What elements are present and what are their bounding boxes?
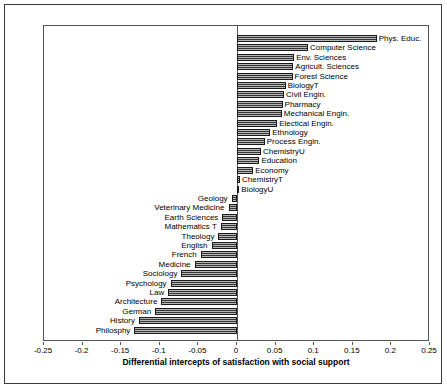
bar-row: German	[44, 308, 428, 317]
bar-category-label: Mathematics T	[164, 222, 216, 231]
bar-category-label: Agricult. Sciences	[295, 62, 359, 71]
bar-category-label: English	[181, 241, 207, 250]
bar-row: Sociology	[44, 270, 428, 279]
bar-category-label: Process Engin.	[267, 137, 321, 146]
bar-row: Geology	[44, 195, 428, 204]
bar	[237, 63, 293, 70]
bar-row: Computer Science	[44, 44, 428, 53]
x-tick-mark	[275, 342, 276, 345]
x-tick-mark	[429, 342, 430, 345]
bar	[171, 280, 237, 287]
x-tick-label: 0.15	[344, 346, 360, 355]
x-tick-label: -0.25	[34, 346, 52, 355]
x-tick-label: -0.15	[111, 346, 129, 355]
bar-row: Civil Engin.	[44, 91, 428, 100]
bar	[222, 214, 237, 221]
bar-row: Earth Sciences	[44, 214, 428, 223]
bar-row: Forest Science	[44, 73, 428, 82]
bar	[237, 120, 277, 127]
bar-category-label: Computer Science	[310, 43, 376, 52]
plot-area: Phys. Educ.Computer ScienceEnv. Sciences…	[43, 25, 429, 341]
bar-category-label: ChemistryT	[242, 175, 283, 184]
bar-row: ChemistryU	[44, 148, 428, 157]
bar-row: Ethnology	[44, 129, 428, 138]
x-axis: -0.25-0.2-0.15-0.1-0.0500.050.10.150.20.…	[43, 342, 429, 356]
bar-row: Economy	[44, 167, 428, 176]
bar	[237, 82, 286, 89]
bar-row: Law	[44, 289, 428, 298]
bar-category-label: Env. Sciences	[296, 53, 346, 62]
bar-category-label: Mechanical Engin.	[284, 109, 349, 118]
bar-row: Agricult. Sciences	[44, 63, 428, 72]
bar-category-label: Architecture	[115, 297, 158, 306]
bar	[232, 195, 237, 202]
bar	[201, 251, 237, 258]
x-tick-mark	[120, 342, 121, 345]
bar-category-label: French	[172, 250, 197, 259]
bar-category-label: Theology	[182, 232, 215, 241]
x-tick-mark	[197, 342, 198, 345]
x-tick-mark	[159, 342, 160, 345]
x-tick-label: 0.2	[385, 346, 396, 355]
bar-row: Process Engin.	[44, 138, 428, 147]
bar-row: Veterinary Medicine	[44, 204, 428, 213]
bar	[221, 223, 237, 230]
bar	[237, 176, 240, 183]
bar-category-label: Veterinary Medicine	[154, 203, 224, 212]
bar-category-label: Electical Engin.	[279, 119, 334, 128]
bar	[237, 110, 282, 117]
x-tick-mark	[390, 342, 391, 345]
bar-row: BiologyU	[44, 186, 428, 195]
bar-row: Pharmacy	[44, 101, 428, 110]
bar-category-label: Civil Engin.	[286, 90, 326, 99]
bar	[237, 44, 308, 51]
x-tick-label: 0.1	[308, 346, 319, 355]
bar	[237, 54, 294, 61]
bar-row: Philosphy	[44, 327, 428, 336]
bar-row: ChemistryT	[44, 176, 428, 185]
bar-category-label: Education	[261, 156, 297, 165]
x-tick-mark	[43, 342, 44, 345]
bar-series: Phys. Educ.Computer ScienceEnv. Sciences…	[44, 26, 428, 340]
x-tick-label: -0.2	[75, 346, 89, 355]
bar	[237, 167, 253, 174]
x-tick-label: 0.25	[421, 346, 437, 355]
bar-category-label: History	[110, 316, 135, 325]
bar	[134, 327, 237, 334]
bar	[237, 91, 284, 98]
bar-category-label: ChemistryU	[263, 147, 305, 156]
bar-category-label: BiologyT	[288, 81, 319, 90]
bar-category-label: Law	[150, 288, 165, 297]
x-tick-mark	[352, 342, 353, 345]
x-tick-mark	[313, 342, 314, 345]
bar-category-label: Medicine	[159, 260, 191, 269]
bar	[237, 101, 283, 108]
bar-category-label: Phys. Educ.	[379, 34, 422, 43]
bar-category-label: Forest Science	[295, 72, 348, 81]
bar	[237, 148, 261, 155]
bar	[237, 186, 239, 193]
bar	[229, 204, 237, 211]
x-tick-mark	[82, 342, 83, 345]
bar-category-label: Pharmacy	[285, 100, 321, 109]
bar	[155, 308, 237, 315]
bar-category-label: BiologyU	[241, 185, 273, 194]
bar	[237, 73, 293, 80]
bar-row: Education	[44, 157, 428, 166]
x-tick-mark	[236, 342, 237, 345]
bar-category-label: Sociology	[143, 269, 178, 278]
bar	[168, 289, 237, 296]
bar-category-label: Economy	[255, 166, 288, 175]
bar	[237, 129, 270, 136]
bar-row: Theology	[44, 233, 428, 242]
bar-category-label: Geology	[198, 194, 228, 203]
x-tick-label: 0.05	[267, 346, 283, 355]
x-tick-label: -0.1	[152, 346, 166, 355]
x-axis-title: Differential intercepts of satisfaction …	[43, 357, 429, 367]
bar-row: Electical Engin.	[44, 120, 428, 129]
bar-category-label: German	[122, 307, 151, 316]
bar	[237, 138, 265, 145]
bar-category-label: Earth Sciences	[165, 213, 219, 222]
bar-row: English	[44, 242, 428, 251]
bar	[237, 157, 259, 164]
